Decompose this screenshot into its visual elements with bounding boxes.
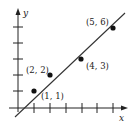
x-axis-label: x	[119, 113, 124, 123]
y-axis-arrow-icon	[16, 8, 21, 15]
data-point-1-1	[31, 88, 36, 93]
data-point-5-6	[110, 25, 115, 30]
label-point-4-3: (4, 3)	[86, 61, 109, 71]
data-point-4-3	[78, 56, 83, 61]
x-axis-arrow-icon	[121, 106, 128, 111]
label-point-1-1: (1, 1)	[41, 91, 64, 101]
label-point-2-2: (2, 2)	[26, 65, 49, 75]
label-point-5-6: (5, 6)	[86, 17, 109, 27]
y-axis-label: y	[22, 8, 29, 18]
scatter-chart: (1, 1) (2, 2) (4, 3) (5, 6) y x	[0, 0, 135, 130]
